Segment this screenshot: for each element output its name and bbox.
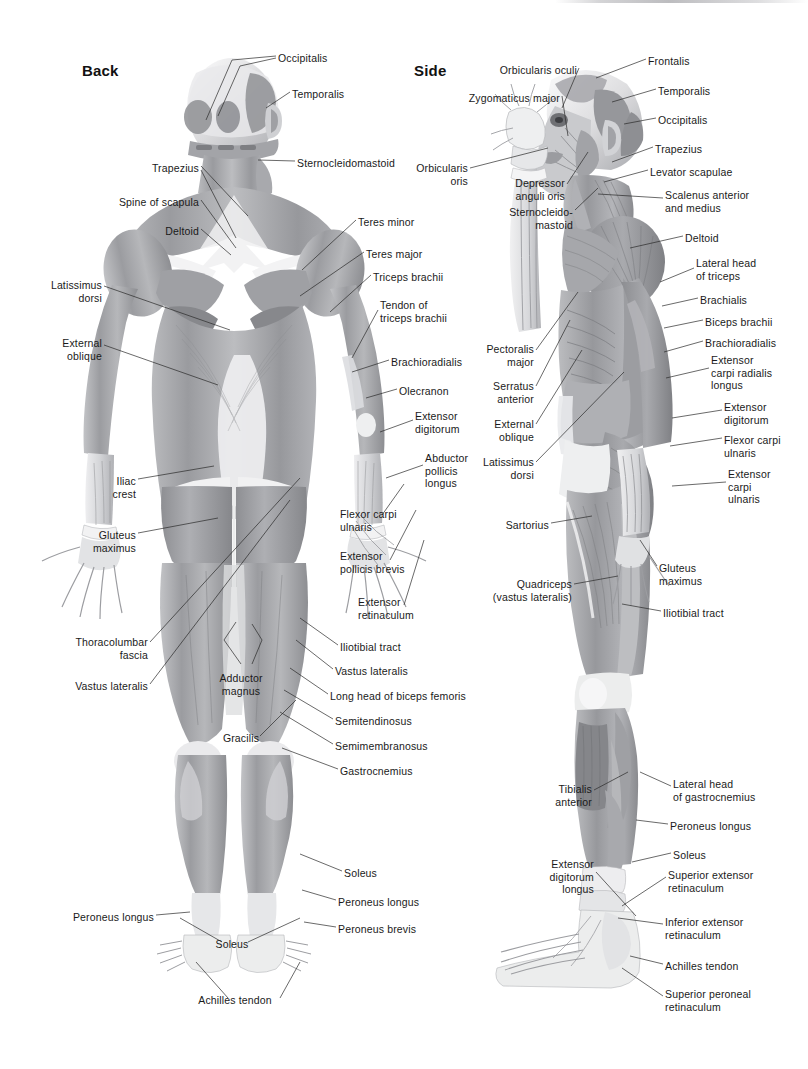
label-flexor-carpi-ulnaris: Flexor carpi ulnaris: [340, 508, 397, 533]
label-temporalis-s: Temporalis: [658, 85, 710, 98]
label-brachioradialis-s: Brachioradialis: [705, 337, 776, 350]
label-thoracolumbar-fascia: Thoracolumbar fascia: [75, 636, 148, 661]
label-lateral-head-gastro: Lateral head of gastrocnemius: [673, 778, 755, 803]
label-brachioradialis: Brachioradialis: [391, 356, 462, 369]
label-serratus-anterior: Serratus anterior: [493, 380, 534, 405]
label-abductor-pollicis: Abductor pollicis longus: [425, 452, 468, 490]
label-long-head-biceps: Long head of biceps femoris: [330, 690, 466, 703]
label-teres-minor: Teres minor: [358, 216, 415, 229]
label-peroneus-longus-s: Peroneus longus: [670, 820, 751, 833]
label-latissimus-dorsi-s: Latissimus dorsi: [483, 456, 534, 481]
label-superior-peroneal: Superior peroneal retinaculum: [665, 988, 751, 1013]
label-iliotibial-tract: Iliotibial tract: [340, 641, 401, 654]
label-triceps-brachii: Triceps brachii: [373, 271, 443, 284]
label-sternocleidomastoid: Sternocleidomastoid: [297, 157, 395, 170]
label-peroneus-longus-l: Peroneus longus: [73, 911, 154, 924]
label-soleus-s: Soleus: [673, 849, 706, 862]
label-soleus-c: Soleus: [215, 938, 248, 951]
label-zygomaticus-major: Zygomaticus major: [469, 92, 560, 105]
label-temporalis: Temporalis: [292, 88, 344, 101]
label-extensor-carpi-rad: Extensor carpi radialis longus: [711, 354, 772, 392]
label-external-oblique-s: External oblique: [494, 418, 534, 443]
label-extensor-dig-longus: Extensor digitorum longus: [549, 858, 594, 896]
label-orbicularis-oris: Orbicularis oris: [416, 162, 468, 187]
label-levator-scapulae: Levator scapulae: [650, 166, 732, 179]
label-soleus-r: Soleus: [344, 867, 377, 880]
anatomy-poster: Back Side OccipitalisTemporalisSternocle…: [0, 0, 808, 1069]
label-biceps-brachii: Biceps brachii: [705, 316, 772, 329]
label-scalenus: Scalenus anterior and medius: [665, 189, 749, 214]
label-semitendinosus: Semitendinosus: [335, 715, 412, 728]
label-extensor-digitorum-s: Extensor digitorum: [724, 401, 769, 426]
label-semimembranosus: Semimembranosus: [335, 740, 428, 753]
label-extensor-carpi-ulnaris: Extensor carpi ulnaris: [728, 468, 771, 506]
label-teres-major: Teres major: [366, 248, 423, 261]
label-peroneus-brevis: Peroneus brevis: [338, 923, 416, 936]
label-vastus-lateralis-l: Vastus lateralis: [75, 680, 148, 693]
label-external-oblique: External oblique: [62, 337, 102, 362]
label-spine-of-scapula: Spine of scapula: [119, 196, 199, 209]
label-achilles-tendon-s: Achilles tendon: [665, 960, 738, 973]
label-frontalis: Frontalis: [648, 55, 690, 68]
label-iliotibial-tract-s: Iliotibial tract: [663, 607, 724, 620]
label-sternocleidomastoid-s: Sternocleido- mastoid: [509, 206, 573, 231]
label-flexor-carpi-ulnaris-s: Flexor carpi ulnaris: [724, 434, 781, 459]
view-title-side: Side: [414, 62, 446, 79]
label-gracilis: Gracilis: [223, 732, 259, 745]
label-sartorius: Sartorius: [506, 519, 549, 532]
label-iliac-crest: Iliac crest: [112, 475, 136, 500]
label-trapezius: Trapezius: [152, 162, 199, 175]
label-occipitalis: Occipitalis: [278, 52, 328, 65]
label-extensor-retinaculum: Extensor retinaculum: [358, 596, 414, 621]
label-gluteus-maximus: Gluteus maximus: [93, 529, 136, 554]
label-vastus-lateralis-r: Vastus lateralis: [335, 665, 408, 678]
label-deltoid-s: Deltoid: [685, 232, 719, 245]
label-peroneus-longus-r: Peroneus longus: [338, 896, 419, 909]
label-brachialis: Brachialis: [700, 294, 747, 307]
label-lateral-head-triceps: Lateral head of triceps: [696, 257, 756, 282]
label-extensor-pollicis: Extensor pollicis brevis: [340, 550, 405, 575]
label-adductor-magnus: Adductor magnus: [219, 672, 262, 697]
label-inferior-ext-ret: Inferior extensor retinaculum: [665, 916, 743, 941]
label-occipitalis-s: Occipitalis: [658, 114, 708, 127]
label-achilles-tendon: Achilles tendon: [198, 994, 271, 1007]
label-pectoralis-major: Pectoralis major: [486, 343, 534, 368]
label-extensor-digitorum: Extensor digitorum: [415, 410, 460, 435]
label-gastrocnemius: Gastrocnemius: [340, 765, 413, 778]
scan-artifact: [555, 0, 808, 3]
label-quadriceps: Quadriceps (vastus lateralis): [493, 578, 572, 603]
view-title-back: Back: [82, 62, 119, 79]
label-latissimus-dorsi: Latissimus dorsi: [51, 279, 102, 304]
label-olecranon: Olecranon: [399, 385, 449, 398]
label-trapezius-s: Trapezius: [655, 143, 702, 156]
label-gluteus-maximus-s: Gluteus maximus: [659, 562, 702, 587]
label-superior-ext-ret: Superior extensor retinaculum: [668, 869, 753, 894]
label-depressor-anguli: Depressor anguli oris: [515, 177, 565, 202]
label-tibialis-anterior: Tibialis anterior: [555, 783, 592, 808]
label-orbicularis-oculi: Orbicularis oculi: [500, 64, 577, 77]
label-tendon-triceps: Tendon of triceps brachii: [380, 299, 447, 324]
label-deltoid: Deltoid: [165, 225, 199, 238]
